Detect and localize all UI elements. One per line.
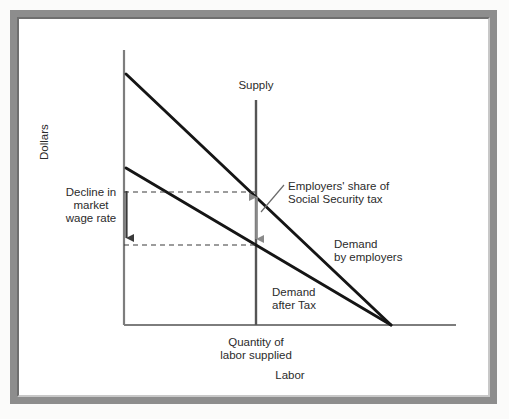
tax-annotation-leader-line: [261, 185, 284, 212]
tax-wedge-label-line1: Employers' share of: [288, 180, 389, 194]
supply-curve-label: Supply: [226, 79, 286, 93]
x-axis-label: Labor: [260, 369, 320, 383]
demand-by-employers-label-line1: Demand: [334, 238, 377, 252]
demand-after-tax-label-line2: after Tax: [272, 299, 316, 313]
demand-by-employers-label-line2: by employers: [334, 251, 402, 265]
y-axis-label: Dollars: [38, 100, 51, 160]
figure-page: Dollars Decline in market wage rate Supp…: [0, 0, 509, 419]
wage-decline-label-line1: Decline in: [60, 186, 122, 200]
demand-after-tax-label-line1: Demand: [272, 286, 315, 300]
x-tick-label-line2: labor supplied: [196, 349, 316, 363]
x-tick-label-line1: Quantity of: [196, 336, 316, 350]
wage-decline-label-line2: market: [60, 199, 122, 213]
tax-wedge-label-line2: Social Security tax: [288, 193, 383, 207]
wage-decline-label-line3: wage rate: [60, 212, 122, 226]
